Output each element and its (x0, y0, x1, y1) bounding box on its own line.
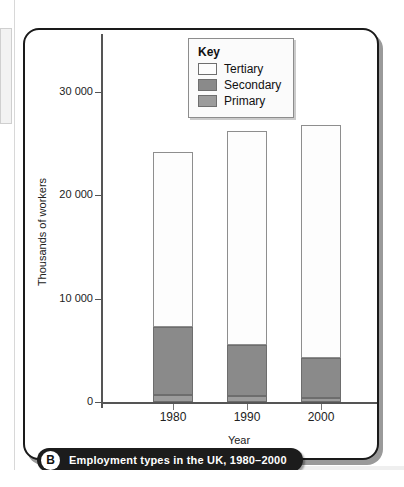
y-tick-mark (95, 195, 102, 196)
bar-segment-secondary-1990 (227, 345, 267, 396)
page-margin-block (0, 28, 12, 124)
y-tick-mark (95, 92, 102, 93)
figure-card: 010 00020 00030 000 Thousands of workers… (23, 28, 379, 460)
legend-label-secondary: Secondary (224, 78, 281, 92)
bar-segment-secondary-2000 (301, 358, 341, 398)
figure-caption-text: Employment types in the UK, 1980–2000 (69, 454, 287, 466)
page-bottom-strip (0, 470, 404, 487)
bar-segment-tertiary-1990 (227, 131, 267, 345)
y-tick-label: 0 (29, 395, 93, 407)
legend-label-primary: Primary (224, 94, 265, 108)
bar-segment-primary-1990 (227, 396, 267, 402)
legend-swatch-primary (198, 95, 217, 107)
bar-segment-primary-1980 (153, 395, 193, 402)
x-axis-line (101, 402, 377, 404)
x-axis-title: Year (101, 434, 377, 446)
bar-segment-tertiary-1980 (153, 152, 193, 327)
bar-2000 (301, 125, 341, 402)
bar-1990 (227, 131, 267, 402)
legend-swatch-secondary (198, 79, 217, 91)
y-tick-mark (95, 402, 102, 403)
y-axis-line (101, 34, 103, 408)
legend-entry-tertiary: Tertiary (198, 62, 281, 76)
y-tick-label: 30 000 (29, 85, 93, 97)
x-tick-label-2000: 2000 (291, 410, 351, 424)
bar-segment-tertiary-2000 (301, 125, 341, 358)
figure-caption-bar: B Employment types in the UK, 1980–2000 (37, 448, 303, 472)
y-axis-title: Thousands of workers (36, 157, 48, 307)
x-tick-label-1980: 1980 (143, 410, 203, 424)
bar-segment-secondary-1980 (153, 327, 193, 395)
y-tick-mark (95, 299, 102, 300)
legend-title: Key (198, 45, 281, 59)
legend-swatch-tertiary (198, 63, 217, 75)
figure-badge: B (41, 451, 60, 470)
legend-entries: TertiarySecondaryPrimary (198, 62, 281, 108)
chart-legend: Key TertiarySecondaryPrimary (188, 38, 294, 118)
bar-segment-primary-2000 (301, 398, 341, 402)
x-tick-label-1990: 1990 (217, 410, 277, 424)
legend-entry-secondary: Secondary (198, 78, 281, 92)
legend-entry-primary: Primary (198, 94, 281, 108)
legend-label-tertiary: Tertiary (224, 62, 263, 76)
chart-plot-area: 010 00020 00030 000 Thousands of workers… (25, 30, 381, 430)
bar-1980 (153, 152, 193, 402)
